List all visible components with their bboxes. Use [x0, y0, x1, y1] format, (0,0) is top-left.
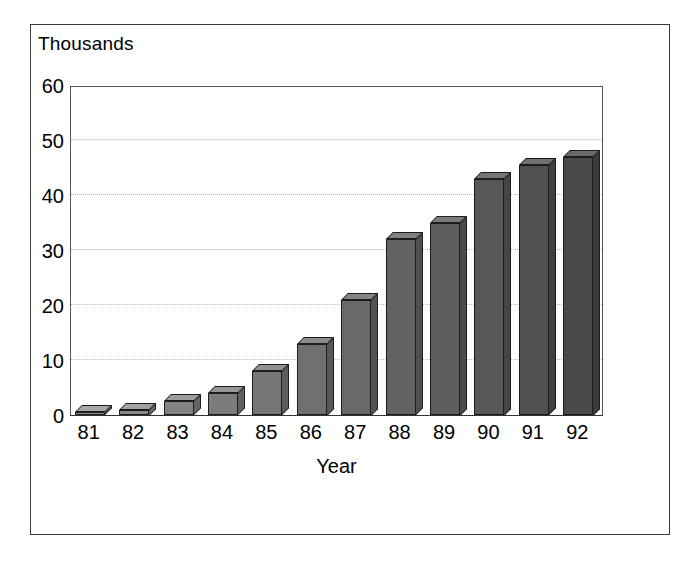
bar-front-face	[519, 165, 549, 415]
bar-front-face	[430, 223, 460, 416]
bar-86	[297, 337, 334, 416]
bar-side-face	[416, 232, 423, 415]
x-tick-83: 83	[166, 421, 188, 444]
bar-side-face	[504, 172, 511, 416]
bar-91	[519, 158, 556, 415]
x-tick-91: 91	[522, 421, 544, 444]
bar-82	[119, 403, 156, 416]
bar-front-face	[75, 412, 105, 415]
x-axis-tick-labels: 818283848586878889909192	[70, 421, 603, 451]
bar-90	[474, 172, 511, 416]
x-axis-title: Year	[70, 455, 603, 478]
bar-side-face	[282, 364, 289, 415]
y-tick-20: 20	[30, 295, 64, 318]
plot-area	[70, 86, 603, 416]
bar-front-face	[252, 371, 282, 415]
bar-front-face	[474, 179, 504, 416]
y-tick-50: 50	[30, 130, 64, 153]
bar-88	[386, 232, 423, 415]
bar-81	[75, 405, 112, 415]
x-tick-86: 86	[300, 421, 322, 444]
bar-84	[208, 386, 245, 415]
bar-side-face	[238, 386, 245, 415]
bar-side-face	[371, 293, 378, 416]
x-tick-89: 89	[433, 421, 455, 444]
bar-front-face	[341, 300, 371, 416]
bar-85	[252, 364, 289, 415]
x-tick-81: 81	[78, 421, 100, 444]
y-tick-60: 60	[30, 75, 64, 98]
y-tick-0: 0	[30, 405, 64, 428]
y-axis-unit-label: Thousands	[38, 33, 134, 55]
bar-83	[164, 394, 201, 415]
x-tick-82: 82	[122, 421, 144, 444]
bar-front-face	[386, 239, 416, 415]
bar-series	[71, 87, 602, 415]
x-tick-90: 90	[477, 421, 499, 444]
bar-front-face	[297, 344, 327, 416]
bar-92	[563, 150, 600, 416]
bar-front-face	[563, 157, 593, 416]
bar-87	[341, 293, 378, 416]
bar-89	[430, 216, 467, 416]
y-axis-tick-labels: 0102030405060	[26, 86, 64, 416]
bar-front-face	[164, 401, 194, 415]
bar-side-face	[460, 216, 467, 416]
y-tick-30: 30	[30, 240, 64, 263]
x-tick-87: 87	[344, 421, 366, 444]
bar-side-face	[549, 158, 556, 415]
bar-side-face	[593, 150, 600, 416]
x-tick-85: 85	[255, 421, 277, 444]
bar-side-face	[327, 337, 334, 416]
bar-front-face	[119, 410, 149, 416]
y-tick-10: 10	[30, 350, 64, 373]
y-tick-40: 40	[30, 185, 64, 208]
x-tick-88: 88	[389, 421, 411, 444]
bar-front-face	[208, 393, 238, 415]
x-tick-84: 84	[211, 421, 233, 444]
x-tick-92: 92	[566, 421, 588, 444]
